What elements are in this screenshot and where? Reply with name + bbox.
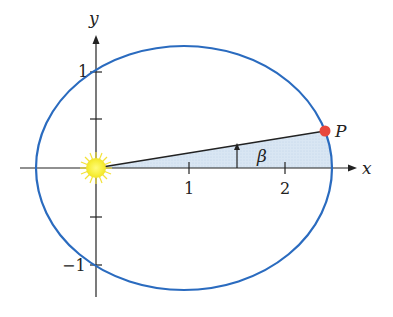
x-tick-label-2: 2: [280, 179, 290, 198]
point-p-marker: [320, 126, 331, 137]
sun-icon: [80, 152, 112, 184]
y-axis-label: y: [88, 8, 99, 28]
angle-beta-label: β: [256, 146, 267, 166]
point-p-label: P: [334, 121, 347, 141]
orbit-diagram: x y 1 2 1 −1 P β: [0, 0, 393, 317]
y-tick-label-1: 1: [78, 62, 88, 81]
y-tick-label-neg1: −1: [62, 256, 86, 275]
x-tick-label-1: 1: [184, 179, 194, 198]
x-axis-label: x: [362, 158, 372, 178]
